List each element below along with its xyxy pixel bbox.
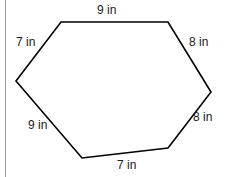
- hexagon-outline: [16, 22, 211, 158]
- side-label-upper-left: 7 in: [16, 36, 35, 49]
- figure-canvas: 9 in 7 in 8 in 8 in 9 in 7 in: [0, 0, 228, 177]
- side-label-top: 9 in: [97, 4, 116, 17]
- side-label-lower-right: 8 in: [193, 111, 212, 124]
- side-label-lower-left: 9 in: [28, 119, 47, 132]
- side-label-bottom: 7 in: [117, 159, 136, 172]
- side-label-upper-right: 8 in: [189, 36, 208, 49]
- hexagon-shape: [0, 0, 228, 177]
